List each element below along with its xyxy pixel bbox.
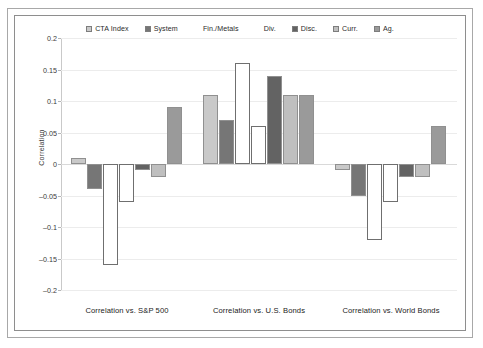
gridline [61, 290, 457, 291]
plot-area: 0.20.150.10.050–0.05–0.1–0.15–0.2Correla… [61, 38, 457, 290]
y-tick-label: –0.2 [43, 286, 57, 295]
bar [335, 164, 350, 170]
y-tick-label: –0.15 [39, 254, 57, 263]
bar [135, 164, 150, 170]
gridline [61, 227, 457, 228]
gridline [61, 70, 457, 71]
y-tick-label: 0.2 [47, 34, 57, 43]
x-group-label: Correlation vs. U.S. Bonds [193, 306, 325, 315]
gridline [61, 259, 457, 260]
y-tick-label: 0.05 [43, 128, 57, 137]
bar [219, 120, 234, 164]
bar [151, 164, 166, 177]
y-tick-label: –0.05 [39, 191, 57, 200]
bar [167, 107, 182, 164]
bar [267, 76, 282, 164]
bar [235, 63, 250, 164]
x-group-label: Correlation vs. World Bonds [325, 306, 457, 315]
gridline [61, 101, 457, 102]
bar [203, 95, 218, 164]
y-tick-mark [58, 227, 61, 228]
bar [383, 164, 398, 202]
gridline [61, 38, 457, 39]
y-tick-label: –0.1 [43, 223, 57, 232]
bar [431, 126, 446, 164]
chart-outer-frame: CTA IndexSystemFin./MetalsDiv.Disc.Curr.… [7, 8, 473, 338]
y-tick-mark [58, 101, 61, 102]
y-tick-mark [58, 164, 61, 165]
bar [351, 164, 366, 196]
y-tick-mark [58, 38, 61, 39]
y-axis-title: Correlation [38, 118, 45, 178]
y-tick-mark [58, 133, 61, 134]
bar [119, 164, 134, 202]
bar [299, 95, 314, 164]
chart-inner-frame: CTA IndexSystemFin./MetalsDiv.Disc.Curr.… [14, 15, 466, 331]
bar [87, 164, 102, 189]
bar [367, 164, 382, 240]
bar [283, 95, 298, 164]
bar [399, 164, 414, 177]
bar [251, 126, 266, 164]
y-tick-mark [58, 70, 61, 71]
y-tick-label: 0 [53, 160, 57, 169]
plot-wrapper: Correlation 0.20.150.10.050–0.05–0.1–0.1… [15, 16, 465, 330]
bar [71, 158, 86, 164]
x-group-label: Correlation vs. S&P 500 [61, 306, 193, 315]
y-tick-label: 0.15 [43, 65, 57, 74]
bar [415, 164, 430, 177]
y-tick-label: 0.1 [47, 97, 57, 106]
y-tick-mark [58, 196, 61, 197]
y-tick-mark [58, 259, 61, 260]
y-tick-mark [58, 290, 61, 291]
bar [103, 164, 118, 265]
